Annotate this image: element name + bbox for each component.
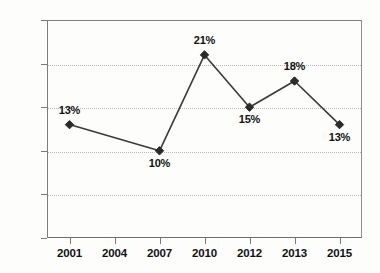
data-point-label: 13% (315, 131, 365, 143)
data-point-label: 13% (45, 104, 95, 116)
data-point-label: 10% (135, 157, 185, 169)
data-point-label: 21% (180, 34, 230, 46)
data-point-marker (65, 120, 73, 128)
data-point-label: 18% (270, 60, 320, 72)
data-point-marker (155, 147, 163, 155)
data-point-label: 15% (225, 113, 275, 125)
line-chart: 0%5%10%15%20%25% 20012004200720102012201… (0, 0, 380, 273)
